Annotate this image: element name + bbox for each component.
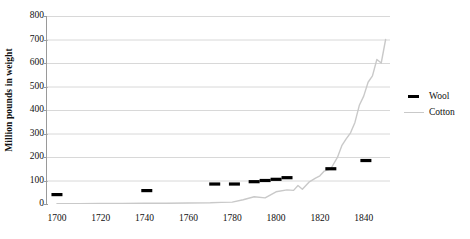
legend-label-cotton: Cotton [429,107,455,117]
x-tick-label-1740: 1740 [135,214,154,224]
wool-dash-key-icon [404,91,424,101]
legend-label-wool: Wool [429,91,449,101]
plot-area [46,16,390,204]
wool-marker [282,176,293,179]
wool-series-markers [51,159,371,196]
x-tick-label-1700: 1700 [47,214,66,224]
x-tick-label-1720: 1720 [91,214,110,224]
x-tick-label-1820: 1820 [310,214,329,224]
wool-marker [360,159,371,162]
wool-marker [141,189,152,192]
cotton-line-key-icon [404,107,424,117]
wool-marker [51,193,62,196]
cotton-line-path [57,40,386,204]
wool-marker [260,179,271,182]
x-tick-label-1780: 1780 [223,214,242,224]
wool-marker [249,180,260,183]
legend: Wool Cotton [404,88,470,120]
wool-marker [209,182,220,185]
x-tick-label-1840: 1840 [354,214,373,224]
legend-item-cotton[interactable]: Cotton [404,104,470,120]
plot-svg [46,16,390,204]
wool-marker [325,167,336,170]
x-tick-label-1760: 1760 [179,214,198,224]
chart-container: Million pounds in weight 800700600500400… [0,0,470,239]
wool-marker [229,182,240,185]
cotton-series-line [57,40,386,204]
x-tick-label-1800: 1800 [267,214,286,224]
wool-marker [271,178,282,181]
gridlines [46,17,390,205]
legend-item-wool[interactable]: Wool [404,88,470,104]
